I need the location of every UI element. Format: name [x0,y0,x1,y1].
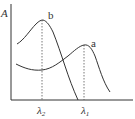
curve-a [16,45,110,92]
curve-a-label: a [91,37,96,49]
absorbance-chart: A b a λ2 λ1 [0,0,135,119]
curve-b-label: b [48,9,54,21]
curve-b [17,20,78,100]
tick-label-lambda2: λ2 [36,104,46,118]
y-axis-label: A [0,7,8,19]
tick-label-lambda1: λ1 [80,104,89,118]
